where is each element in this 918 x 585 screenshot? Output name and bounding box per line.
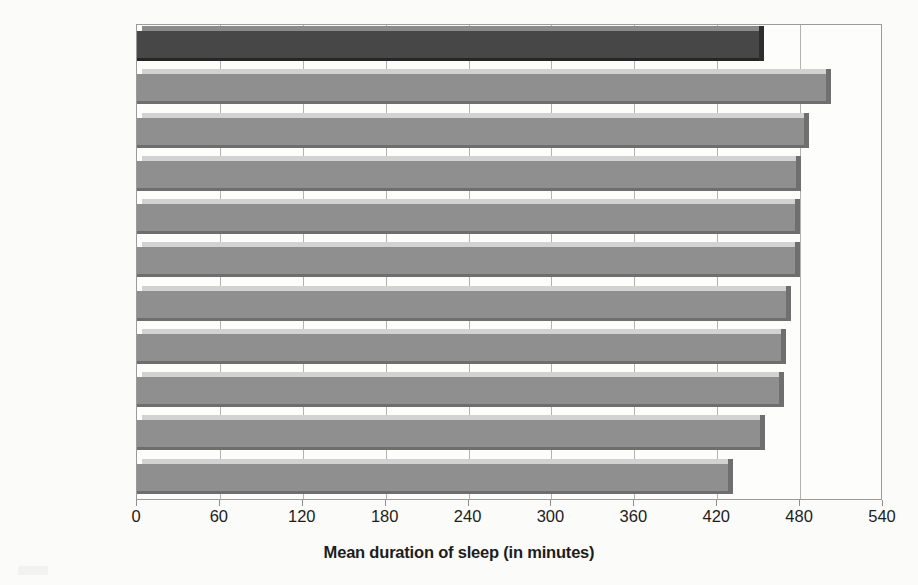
bar-row: Germany [137, 414, 881, 457]
bar-side-face [804, 113, 809, 148]
scan-artifact [18, 566, 48, 575]
bar-row: Brazil [137, 371, 881, 414]
x-tick-mark [716, 500, 717, 506]
x-tick-label: 300 [537, 507, 565, 526]
bar-china[interactable] [137, 118, 809, 148]
bar-chart-figure: All countriesPortugalChinaAustriaBelgium… [0, 0, 918, 585]
bar-all-countries[interactable] [137, 31, 764, 61]
x-tick-label: 540 [868, 507, 896, 526]
bar-south-africa[interactable] [137, 334, 786, 364]
bar-japan[interactable] [137, 464, 733, 494]
x-axis: 060120180240300360420480540 [136, 500, 882, 526]
bar-row: All countries [137, 25, 881, 68]
x-tick-label: 180 [371, 507, 399, 526]
x-tick-label: 60 [210, 507, 228, 526]
bar-row: Spain [137, 241, 881, 284]
bar-front-face [137, 204, 795, 234]
x-tick-label: 120 [288, 507, 316, 526]
bar-row: Japan [137, 458, 881, 501]
bar-portugal[interactable] [137, 74, 831, 104]
x-tick-mark [468, 500, 469, 506]
bar-side-face [795, 199, 800, 234]
bar-side-face [826, 69, 831, 104]
x-tick-label: 420 [702, 507, 730, 526]
bar-front-face [137, 420, 760, 450]
bar-spain[interactable] [137, 247, 800, 277]
x-tick-mark [633, 500, 634, 506]
bar-row: Austria [137, 155, 881, 198]
bar-side-face [759, 26, 764, 61]
x-tick-mark [219, 500, 220, 506]
x-tick-mark [136, 500, 137, 506]
bar-front-face [137, 334, 781, 364]
x-tick-label: 360 [620, 507, 648, 526]
x-tick-label: 480 [785, 507, 813, 526]
plot-area: All countriesPortugalChinaAustriaBelgium… [136, 24, 882, 500]
bar-row: Portugal [137, 68, 881, 111]
bar-side-face [795, 242, 800, 277]
bar-front-face [137, 291, 786, 321]
x-tick-mark [882, 500, 883, 506]
bar-brazil[interactable] [137, 377, 784, 407]
bar-front-face [137, 247, 795, 277]
bar-austria[interactable] [137, 161, 801, 191]
bar-rows: All countriesPortugalChinaAustriaBelgium… [137, 25, 881, 499]
bar-slovakia[interactable] [137, 291, 791, 321]
bar-side-face [796, 156, 801, 191]
bar-front-face [137, 74, 826, 104]
x-tick-mark [385, 500, 386, 506]
x-tick-mark [302, 500, 303, 506]
x-tick-label: 240 [454, 507, 482, 526]
bar-germany[interactable] [137, 420, 765, 450]
bar-side-face [781, 329, 786, 364]
bar-front-face [137, 31, 759, 61]
x-axis-title: Mean duration of sleep (in minutes) [0, 543, 918, 562]
bar-row: South Africa [137, 328, 881, 371]
bar-front-face [137, 161, 796, 191]
bar-side-face [728, 459, 733, 494]
x-tick-mark [799, 500, 800, 506]
bar-belgium[interactable] [137, 204, 800, 234]
bar-row: Belgium [137, 198, 881, 241]
bar-side-face [779, 372, 784, 407]
bar-side-face [786, 286, 791, 321]
x-tick-mark [550, 500, 551, 506]
bar-front-face [137, 118, 804, 148]
bar-row: China [137, 112, 881, 155]
bar-front-face [137, 464, 728, 494]
bar-front-face [137, 377, 779, 407]
x-tick-label: 0 [131, 507, 140, 526]
bar-row: Slovakia [137, 285, 881, 328]
bar-side-face [760, 415, 765, 450]
